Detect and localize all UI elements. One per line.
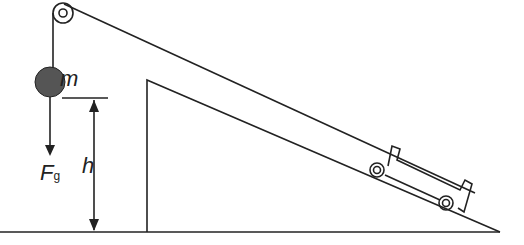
pulley-icon (53, 3, 73, 23)
height-label: h (82, 153, 94, 179)
force-label-sub: g (53, 169, 60, 183)
cart (370, 146, 472, 212)
incline-pulley-diagram (0, 0, 524, 245)
height-arrowhead-down (89, 219, 99, 231)
string-top (64, 4, 475, 193)
force-label-main: F (40, 160, 53, 185)
force-label: Fg (40, 160, 60, 186)
mass-label: m (60, 66, 78, 92)
force-arrowhead (45, 145, 55, 156)
pulley-axle (59, 9, 67, 17)
height-arrowhead-up (89, 100, 99, 112)
